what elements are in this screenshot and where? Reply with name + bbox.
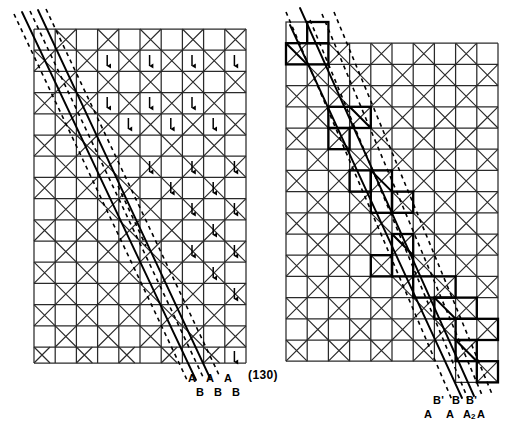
right-label-a-4: A (477, 408, 485, 420)
left-label-a-3: A (224, 372, 232, 384)
left-label-a-2: A (206, 372, 214, 384)
right-label-b: B (452, 394, 460, 406)
figure-root: (130) A A A B B B B' B B' A A A 2 A (0, 0, 523, 428)
right-label-bprime-2: B' (466, 394, 477, 406)
lattice-diagram (0, 0, 523, 428)
right-label-a2-subscript: 2 (471, 412, 476, 421)
left-label-b-2: B (214, 386, 222, 398)
right-label-a-3: A (463, 408, 471, 420)
right-label-a-2: A (446, 408, 454, 420)
figure-caption: (130) (248, 368, 278, 382)
right-label-bprime-1: B' (433, 394, 444, 406)
left-label-a-1: A (188, 372, 196, 384)
left-label-b-1: B (196, 386, 204, 398)
left-label-b-3: B (232, 386, 240, 398)
right-label-a-1: A (424, 408, 432, 420)
